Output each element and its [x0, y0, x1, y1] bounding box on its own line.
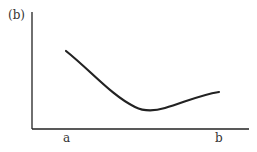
x-tick-label-a: a	[63, 131, 70, 145]
x-tick-label-b: b	[215, 131, 223, 145]
chart-canvas	[0, 0, 257, 152]
data-curve	[66, 51, 219, 111]
